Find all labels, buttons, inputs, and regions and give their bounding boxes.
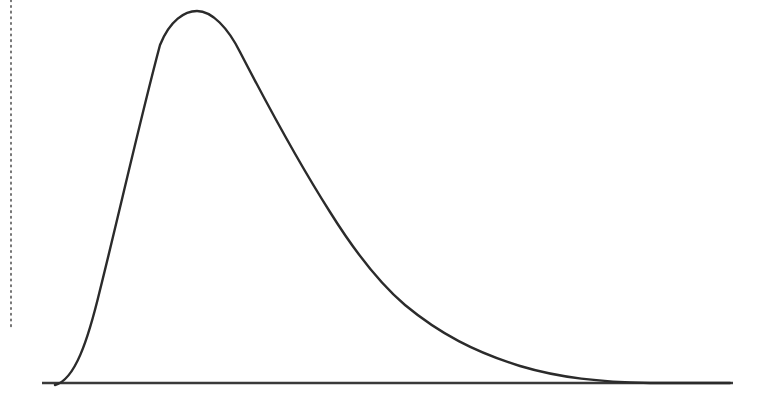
distribution-diagram [0,0,782,412]
distribution-curve [55,11,730,385]
